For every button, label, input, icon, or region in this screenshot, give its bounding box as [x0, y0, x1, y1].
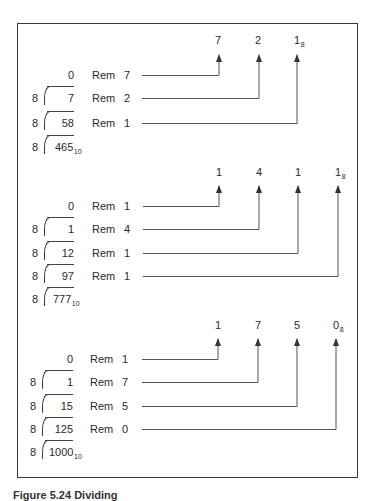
quotient: 12 — [34, 247, 74, 259]
remainder: 7 — [122, 376, 128, 388]
dividend: 46510 — [55, 141, 82, 155]
quotient: 15 — [33, 400, 73, 412]
quotient: 0 — [34, 200, 74, 212]
result-digit: 2 — [255, 34, 261, 46]
division-bar — [47, 135, 74, 136]
remainder: 2 — [124, 92, 130, 104]
division-bar — [47, 241, 74, 242]
quotient: 0 — [34, 69, 74, 81]
rem-label: Rem — [90, 400, 113, 412]
division-bracket — [42, 440, 49, 459]
remainder: 7 — [124, 69, 130, 81]
rem-label: Rem — [92, 69, 115, 81]
quotient: 97 — [34, 270, 74, 282]
quotient: 125 — [33, 423, 73, 435]
division-bar — [47, 264, 74, 265]
division-bar — [45, 370, 73, 371]
remainder: 1 — [124, 200, 130, 212]
division-bar — [47, 111, 74, 112]
division-bar — [47, 217, 74, 218]
result-digit: 7 — [255, 319, 261, 331]
rem-label: Rem — [92, 200, 115, 212]
divisor: 8 — [32, 141, 38, 153]
result-digit: 5 — [294, 319, 300, 331]
result-digit: 4 — [256, 166, 262, 178]
rem-label: Rem — [92, 92, 115, 104]
remainder: 1 — [122, 353, 128, 365]
result-digit-last: 08 — [333, 319, 344, 333]
division-bar — [45, 417, 73, 418]
rem-label: Rem — [90, 353, 113, 365]
remainder: 5 — [122, 400, 128, 412]
remainder: 0 — [122, 423, 128, 435]
rem-label: Rem — [92, 223, 115, 235]
division-bar — [47, 86, 74, 87]
remainder: 1 — [124, 247, 130, 259]
quotient: 1 — [33, 376, 73, 388]
result-digit: 7 — [215, 34, 221, 46]
division-bar — [45, 394, 73, 395]
quotient: 1 — [34, 223, 74, 235]
remainder: 1 — [124, 117, 130, 129]
divisor: 8 — [32, 293, 38, 305]
rem-label: Rem — [90, 376, 113, 388]
division-bar — [47, 287, 74, 288]
dividend: 100010 — [49, 446, 82, 460]
division-bar — [45, 440, 73, 441]
result-digit-last: 18 — [335, 166, 346, 180]
result-digit: 1 — [216, 166, 222, 178]
division-bracket — [44, 135, 51, 154]
quotient: 0 — [33, 353, 73, 365]
result-digit-last: 18 — [294, 34, 305, 48]
remainder: 4 — [124, 223, 130, 235]
result-digit: 1 — [295, 166, 301, 178]
quotient: 58 — [34, 117, 74, 129]
remainder: 1 — [124, 270, 130, 282]
result-digit: 1 — [215, 319, 221, 331]
quotient: 7 — [34, 92, 74, 104]
rem-label: Rem — [90, 423, 113, 435]
rem-label: Rem — [92, 247, 115, 259]
dividend: 77710 — [53, 293, 80, 307]
divisor: 8 — [30, 446, 36, 458]
rem-label: Rem — [92, 270, 115, 282]
figure-caption: Figure 5.24 Dividing — [13, 489, 118, 501]
rem-label: Rem — [92, 117, 115, 129]
division-bracket — [44, 287, 51, 306]
